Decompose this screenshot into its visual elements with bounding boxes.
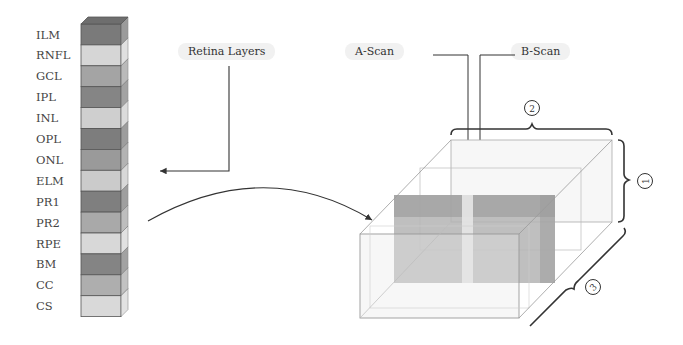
stack-top-face (81, 17, 128, 24)
layer-bm (81, 254, 121, 275)
layer-ilm (81, 24, 121, 45)
brace-1 (618, 140, 629, 222)
curved-arrow (148, 188, 372, 221)
layer-cc (81, 275, 121, 296)
layer-rpe (81, 233, 121, 254)
layer-rnfl (81, 45, 121, 66)
diagram-canvas: 2 1 3 (0, 0, 683, 345)
oct-volume-box (360, 140, 612, 318)
layer-opl (81, 129, 121, 150)
layer-onl (81, 149, 121, 170)
retina-layer-stack (81, 17, 128, 317)
layer-cs (81, 296, 121, 317)
marker-1: 1 (641, 178, 651, 184)
brace-2 (451, 124, 612, 135)
retina-layers-arrow (160, 66, 229, 171)
layer-gcl (81, 66, 121, 87)
layer-pr1 (81, 191, 121, 212)
marker-2: 2 (529, 104, 535, 114)
layer-pr2 (81, 212, 121, 233)
layer-ipl (81, 87, 121, 108)
layer-inl (81, 108, 121, 129)
layer-elm (81, 170, 121, 191)
